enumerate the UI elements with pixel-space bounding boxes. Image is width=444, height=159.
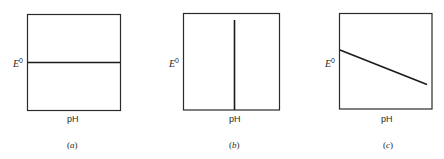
panel-c-ylabel-superscript: 0 (331, 57, 335, 64)
panel-a-caption-letter: a (70, 140, 75, 150)
panel-b-caption: (b) (229, 141, 240, 150)
panel-b (184, 14, 280, 111)
panel-a-caption: (a) (67, 141, 78, 150)
panel-c-xlabel: pH (381, 115, 393, 124)
panel-a-ylabel-superscript: 0 (19, 57, 23, 64)
panel-c-frame (340, 14, 433, 110)
panel-c-ylabel: E0 (325, 57, 335, 69)
panel-c-e0-line-decreasing (340, 50, 427, 85)
panel-b-caption-letter: b (232, 140, 237, 150)
panel-b-frame (184, 14, 280, 111)
panel-b-ylabel: E0 (169, 57, 179, 69)
panel-c-caption: (c) (383, 141, 393, 150)
panel-c (340, 14, 433, 110)
panel-b-xlabel: pH (229, 115, 241, 124)
panel-a-xlabel: pH (67, 115, 79, 124)
panel-c-caption-letter: c (386, 140, 390, 150)
panel-a (28, 15, 121, 111)
figure-canvas (0, 0, 444, 159)
panel-a-ylabel: E0 (13, 57, 23, 69)
panel-b-ylabel-superscript: 0 (175, 57, 179, 64)
